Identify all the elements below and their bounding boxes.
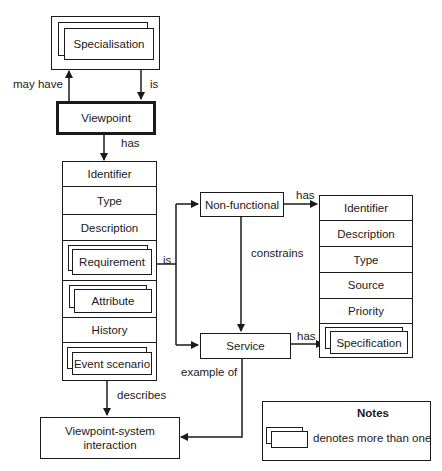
specification-node[interactable]: Specification	[330, 331, 408, 354]
edge-label-is-specialisation: is	[150, 78, 158, 90]
specialisation-stack: Specialisation	[58, 22, 154, 62]
attr-label: Attribute	[92, 295, 135, 307]
attr-label: Description	[337, 228, 395, 240]
service-label: Service	[226, 339, 264, 353]
specialisation-node[interactable]: Specialisation	[64, 28, 154, 60]
attr-label: Priority	[348, 305, 384, 317]
requirement-attr-source[interactable]: Source	[320, 273, 412, 299]
attr-label: Identifier	[344, 202, 388, 214]
viewpoint-attributes-column: Identifier Type Description Requirement …	[62, 161, 157, 381]
event-scenario-stack: Event scenario	[67, 347, 153, 375]
edge-label-has-service: has	[297, 330, 316, 342]
interaction-label-line1: Viewpoint-system	[65, 424, 155, 438]
attr-label: Source	[348, 279, 384, 291]
viewpoint-node[interactable]: Viewpoint	[56, 101, 156, 135]
requirement-attributes-column: Identifier Description Type Source Prior…	[319, 195, 413, 358]
requirement-node[interactable]: Requirement	[72, 249, 152, 275]
viewpoint-system-interaction-node[interactable]: Viewpoint-system interaction	[40, 417, 180, 459]
requirement-attr-priority[interactable]: Priority	[320, 299, 412, 325]
non-functional-label: Non-functional	[205, 198, 279, 212]
stack-front-card	[271, 431, 308, 448]
viewpoint-attr-type[interactable]: Type	[63, 187, 156, 215]
notes-legend: Notes denotes more than one	[262, 401, 431, 461]
attr-label: Identifier	[87, 168, 131, 180]
attr-label: Event scenario	[74, 358, 150, 370]
attr-label: History	[92, 324, 128, 336]
attr-label: Type	[97, 195, 122, 207]
viewpoint-label: Viewpoint	[81, 111, 131, 125]
service-node[interactable]: Service	[200, 333, 291, 359]
edge-label-is-requirement: is	[163, 254, 171, 266]
event-scenario-node[interactable]: Event scenario	[72, 352, 152, 375]
notes-text: denotes more than one	[313, 432, 431, 444]
specialisation-label: Specialisation	[74, 38, 145, 50]
edge-label-has-nonfunctional: has	[296, 189, 315, 201]
viewpoint-attr-identifier[interactable]: Identifier	[63, 162, 156, 187]
edge-label-describes: describes	[117, 389, 166, 401]
attr-label: Requirement	[79, 256, 145, 268]
edge-label-may-have: may have	[13, 78, 63, 90]
legend-stack-icon	[266, 427, 308, 449]
notes-title: Notes	[323, 407, 423, 419]
viewpoint-attr-history[interactable]: History	[63, 318, 156, 343]
interaction-label-line2: interaction	[83, 438, 136, 452]
requirement-attr-specification[interactable]: Specification	[320, 324, 412, 357]
edge-label-has-viewpoint: has	[121, 137, 140, 149]
attribute-stack: Attribute	[69, 285, 153, 313]
attribute-node[interactable]: Attribute	[74, 289, 152, 313]
requirement-attr-type[interactable]: Type	[320, 247, 412, 273]
attr-label: Description	[81, 222, 139, 234]
viewpoint-attr-description[interactable]: Description	[63, 215, 156, 241]
viewpoint-attr-requirement[interactable]: Requirement	[63, 241, 156, 281]
viewpoint-attr-event-scenario[interactable]: Event scenario	[63, 343, 156, 380]
requirement-attr-identifier[interactable]: Identifier	[320, 196, 412, 221]
requirement-stack: Requirement	[68, 245, 152, 275]
attr-label: Type	[354, 254, 379, 266]
non-functional-node[interactable]: Non-functional	[200, 192, 284, 217]
specification-stack: Specification	[325, 327, 409, 354]
edge-label-example-of: example of	[181, 366, 237, 378]
edge-label-constrains: constrains	[251, 247, 303, 259]
attr-label: Specification	[336, 337, 401, 349]
viewpoint-attr-attribute[interactable]: Attribute	[63, 281, 156, 318]
requirement-attr-description[interactable]: Description	[320, 221, 412, 248]
